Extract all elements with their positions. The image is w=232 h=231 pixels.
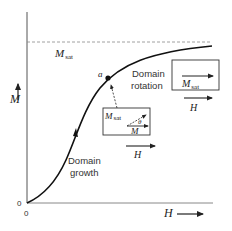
inset-rotating: Msat θ M H bbox=[103, 108, 155, 160]
x-axis-label: H bbox=[163, 206, 174, 220]
inset-saturated: Msat H bbox=[172, 60, 219, 113]
y-origin-label: 0 bbox=[17, 199, 22, 208]
inset-saturated-field-label: H bbox=[189, 102, 198, 113]
domain-growth-label-line1: Domain bbox=[68, 155, 101, 166]
domain-rotation-label-line1: Domain bbox=[132, 68, 165, 79]
y-axis-label: M bbox=[9, 92, 21, 106]
inset-rotating-m-label: M bbox=[130, 126, 139, 136]
x-origin-label: 0 bbox=[24, 209, 29, 218]
domain-rotation-label-line2: rotation bbox=[131, 80, 163, 91]
theta-label: θ bbox=[138, 118, 142, 126]
magnetization-diagram: Msat M 0 0 H a Domain growth Domain rota… bbox=[0, 0, 232, 231]
inset-rotating-field-label: H bbox=[133, 149, 142, 160]
point-a bbox=[105, 75, 110, 80]
inset-pointer-arrow-icon bbox=[111, 85, 117, 108]
point-a-label: a bbox=[98, 69, 103, 79]
msat-label: Msat bbox=[54, 47, 73, 61]
domain-growth-label-line2: growth bbox=[70, 167, 99, 178]
